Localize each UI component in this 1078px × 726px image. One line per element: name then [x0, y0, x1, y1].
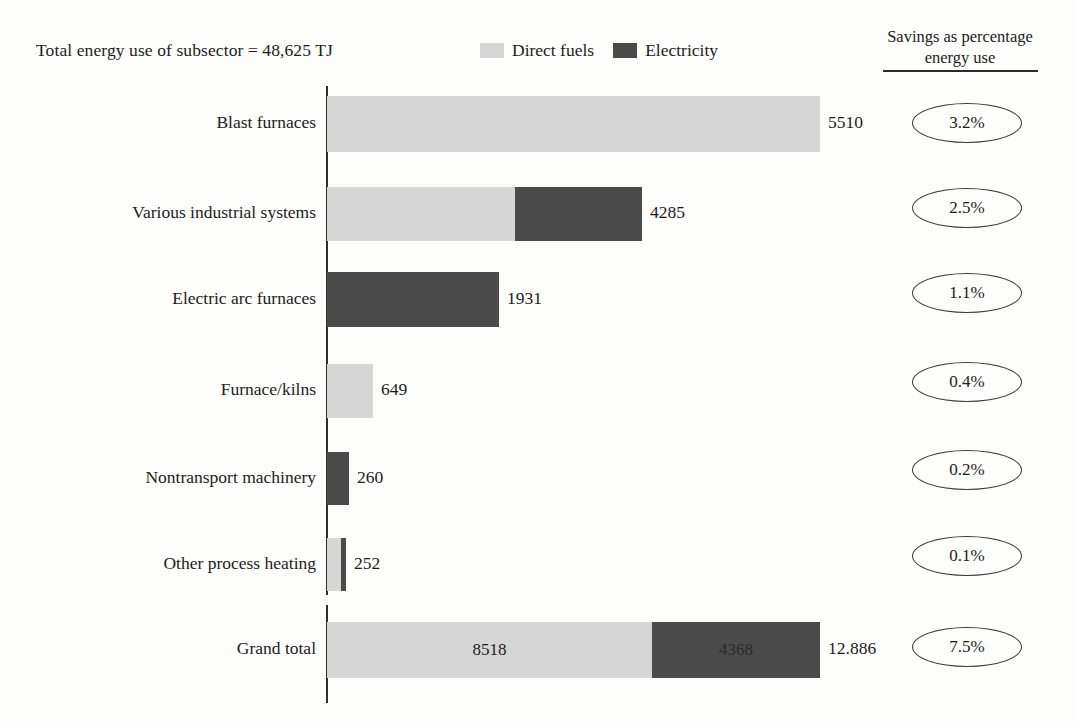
savings-oval: 3.2% — [912, 103, 1022, 143]
legend-item-direct-fuels: Direct fuels — [480, 40, 594, 61]
bar-total-label: 5510 — [828, 112, 863, 133]
bar-segment-electric: 4368 — [652, 622, 820, 678]
bar — [327, 96, 820, 152]
bar-total-label: 260 — [357, 467, 383, 488]
bar-segment-direct — [327, 538, 341, 591]
bar-segment-direct: 8518 — [327, 622, 652, 678]
row-label: Grand total — [30, 638, 316, 659]
stacked-bar-chart: Total energy use of subsector = 48,625 T… — [0, 0, 1078, 726]
bar — [327, 452, 349, 505]
row-label: Various industrial systems — [30, 202, 316, 223]
bar-segment-direct — [327, 364, 373, 418]
legend-swatch-electricity-icon — [613, 43, 637, 58]
bar: 85184368 — [327, 622, 820, 678]
chart-legend: Direct fuels Electricity — [480, 40, 718, 61]
savings-oval: 7.5% — [912, 627, 1022, 667]
bar-total-label: 12.886 — [828, 638, 876, 659]
bar-segment-electric — [515, 187, 642, 241]
bar — [327, 272, 499, 327]
savings-oval: 0.2% — [912, 450, 1022, 490]
bar-segment-direct — [327, 96, 820, 152]
savings-header-line-2: energy use — [860, 47, 1060, 68]
bar — [327, 364, 373, 418]
savings-header-rule — [883, 70, 1038, 71]
bar — [327, 187, 642, 241]
bar — [327, 538, 346, 591]
bar-segment-electric — [327, 272, 499, 327]
savings-oval: 0.4% — [912, 362, 1022, 402]
bar-segment-value: 8518 — [473, 640, 507, 660]
bar-total-label: 252 — [354, 553, 380, 574]
row-label: Other process heating — [30, 553, 316, 574]
row-label: Blast furnaces — [30, 112, 316, 133]
row-label: Nontransport machinery — [30, 467, 316, 488]
bar-segment-value: 4368 — [719, 640, 753, 660]
legend-swatch-direct-fuels-icon — [480, 43, 504, 58]
subsector-total-label: Total energy use of subsector = 48,625 T… — [36, 40, 333, 61]
bar-segment-electric — [327, 452, 349, 505]
value-axis-line — [326, 86, 328, 595]
bar-total-label: 4285 — [650, 202, 685, 223]
bar-segment-electric — [341, 538, 346, 591]
legend-label-electricity: Electricity — [645, 40, 718, 61]
row-label: Electric arc furnaces — [30, 288, 316, 309]
row-label: Furnace/kilns — [30, 379, 316, 400]
bar-segment-direct — [327, 187, 515, 241]
savings-oval: 1.1% — [912, 273, 1022, 313]
savings-column-header: Savings as percentage energy use — [860, 26, 1060, 72]
savings-oval: 2.5% — [912, 188, 1022, 228]
bar-total-label: 649 — [381, 379, 407, 400]
legend-label-direct-fuels: Direct fuels — [512, 40, 594, 61]
bar-total-label: 1931 — [507, 288, 542, 309]
legend-item-electricity: Electricity — [613, 40, 718, 61]
savings-header-line-1: Savings as percentage — [860, 26, 1060, 47]
savings-oval: 0.1% — [912, 536, 1022, 576]
